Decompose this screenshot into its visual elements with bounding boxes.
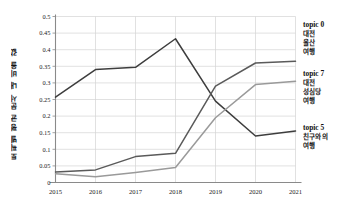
legend-topic7-title: topic 7 <box>303 69 324 79</box>
x-axis-tick-label: 2016 <box>89 188 103 195</box>
y-axis-tick-label: 0.45 <box>39 29 50 36</box>
y-axis-tick-label: 0.4 <box>43 46 52 53</box>
legend-topic7-line3: 여행 <box>303 97 324 106</box>
y-axis-tick-label: 0.3 <box>43 79 51 86</box>
legend-item-topic0: topic 0 대전 울산 여행 <box>303 20 324 57</box>
plot-area: 00.050.10.150.20.250.30.350.40.450.52015… <box>0 0 352 211</box>
y-axis-tick-label: 0.25 <box>39 96 50 103</box>
y-axis-tick-label: 0.15 <box>39 129 50 136</box>
legend-topic5-title: topic 5 <box>303 123 328 133</box>
y-axis-tick-label: 0.5 <box>43 13 51 20</box>
legend-topic0-line1: 대전 <box>303 30 324 39</box>
legend-topic0-line2: 울산 <box>303 39 324 48</box>
y-axis-tick-label: 0.35 <box>39 63 50 70</box>
y-axis-tick-label: 0.2 <box>43 112 51 119</box>
legend-item-topic5: topic 5 친구와의 여행 <box>303 123 328 151</box>
y-axis-tick-label: 0.1 <box>43 146 51 153</box>
legend-topic7-line2: 성심당 <box>303 88 324 97</box>
x-axis-tick-label: 2021 <box>289 188 302 195</box>
legend-topic0-title: topic 0 <box>303 20 324 30</box>
legend-topic0-line3: 여행 <box>303 48 324 57</box>
x-axis-tick-label: 2017 <box>129 188 143 195</box>
x-axis-tick-label: 2015 <box>49 188 63 195</box>
y-axis-tick-label: 0 <box>47 179 50 186</box>
x-axis-tick-label: 2018 <box>169 188 183 195</box>
y-axis-tick-label: 0.05 <box>39 162 50 169</box>
legend-topic5-line2: 여행 <box>303 142 328 151</box>
legend-item-topic7: topic 7 대전 성심당 여행 <box>303 69 324 106</box>
x-axis-tick-label: 2020 <box>249 188 263 195</box>
line-chart: 토픽별 평균 문서 내 비율 값 00.050.10.150.20.250.30… <box>0 0 352 211</box>
legend-topic7-line1: 대전 <box>303 79 324 88</box>
x-axis-tick-label: 2019 <box>209 188 223 195</box>
legend-topic5-line1: 친구와의 <box>303 133 328 142</box>
